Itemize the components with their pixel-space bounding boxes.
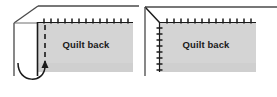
diagram-panel-right: Quilt back: [139, 0, 277, 97]
quilt-binding-diagram: Quilt back: [0, 0, 277, 97]
fold-diagonal-icon-right: [145, 7, 160, 23]
fold-diagonal-icon-left: [14, 6, 38, 23]
panel-left-canvas: Quilt back: [0, 0, 139, 97]
panel-right-canvas: Quilt back: [139, 0, 277, 97]
quilt-back-shade-right: [159, 63, 256, 72]
diagram-panel-left: Quilt back: [0, 0, 139, 97]
quilt-back-label-right: Quilt back: [183, 39, 231, 50]
quilt-back-shade-left: [37, 63, 133, 72]
quilt-back-label-left: Quilt back: [63, 39, 111, 50]
